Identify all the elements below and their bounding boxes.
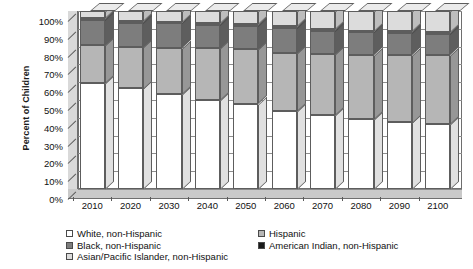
bar-segment[interactable] bbox=[118, 11, 143, 21]
y-axis-tick-label: 40% bbox=[44, 122, 68, 133]
bar-segment[interactable] bbox=[80, 20, 105, 45]
bar-column-2040[interactable] bbox=[195, 11, 220, 189]
bar-column-2080[interactable] bbox=[348, 11, 373, 189]
bar-segment[interactable] bbox=[272, 11, 297, 26]
bar-segment[interactable] bbox=[272, 26, 297, 28]
bar-column-2050[interactable] bbox=[233, 11, 258, 189]
bar-segment[interactable] bbox=[387, 31, 412, 33]
x-axis-tick-label: 2020 bbox=[111, 200, 149, 211]
bar-segment[interactable] bbox=[195, 11, 220, 23]
bar-segment[interactable] bbox=[195, 100, 220, 189]
bar-segment-side bbox=[450, 47, 459, 125]
x-axis-tick-mark bbox=[265, 197, 266, 201]
x-axis-tick-mark bbox=[188, 197, 189, 201]
bar-segment[interactable] bbox=[156, 48, 181, 94]
bar-segment-side bbox=[335, 46, 344, 116]
bar-column-2030[interactable] bbox=[156, 11, 181, 189]
bar-segment[interactable] bbox=[348, 55, 373, 119]
bar-segment[interactable] bbox=[425, 124, 450, 189]
bar-segment[interactable] bbox=[310, 31, 335, 54]
bar-segment[interactable] bbox=[310, 11, 335, 29]
bar-top-cap bbox=[166, 3, 201, 11]
american-indian-swatch bbox=[258, 242, 265, 249]
bar-segment[interactable] bbox=[348, 11, 373, 31]
bar-segment[interactable] bbox=[387, 11, 412, 31]
bar-segment[interactable] bbox=[118, 23, 143, 47]
x-axis-tick-mark bbox=[111, 197, 112, 201]
legend-item[interactable]: American Indian, non-Hispanic bbox=[258, 240, 398, 252]
legend-item[interactable]: Hispanic bbox=[258, 228, 398, 240]
bar-segment[interactable] bbox=[195, 23, 220, 25]
bar-segment[interactable] bbox=[233, 104, 258, 189]
bar-column-2020[interactable] bbox=[118, 11, 143, 189]
bar-segment[interactable] bbox=[233, 49, 258, 103]
bar-top-cap bbox=[243, 3, 278, 11]
bar-column-2100[interactable] bbox=[425, 11, 450, 189]
bar-column-2070[interactable] bbox=[310, 11, 335, 189]
bar-segment[interactable] bbox=[310, 29, 335, 31]
x-axis-tick-mark bbox=[380, 197, 381, 201]
bar-segment[interactable] bbox=[272, 111, 297, 189]
bar-top-cap bbox=[435, 3, 470, 11]
x-axis-tick-mark bbox=[342, 197, 343, 201]
legend-item[interactable]: Black, non-Hispanic bbox=[66, 240, 228, 252]
bar-segment[interactable] bbox=[80, 83, 105, 189]
bar-segment[interactable] bbox=[387, 33, 412, 54]
bar-top-cap bbox=[397, 3, 432, 11]
bar-segment-side bbox=[374, 111, 383, 190]
bar-segment[interactable] bbox=[118, 88, 143, 189]
bar-segment[interactable] bbox=[310, 115, 335, 189]
bar-segment[interactable] bbox=[156, 23, 181, 47]
bar-column-2010[interactable] bbox=[80, 11, 105, 189]
bar-segment[interactable] bbox=[425, 55, 450, 124]
bar-segment[interactable] bbox=[387, 55, 412, 123]
bar-segment[interactable] bbox=[348, 32, 373, 54]
bar-segment[interactable] bbox=[425, 32, 450, 34]
bar-segment-side bbox=[374, 47, 383, 119]
bar-segment[interactable] bbox=[80, 11, 105, 18]
bar-segment[interactable] bbox=[156, 11, 181, 22]
bar-segment-side bbox=[143, 39, 152, 89]
bar-segment-side bbox=[258, 96, 267, 190]
bar-segment[interactable] bbox=[80, 45, 105, 83]
bar-segment[interactable] bbox=[425, 34, 450, 54]
bar-segment[interactable] bbox=[118, 21, 143, 23]
legend-item[interactable]: White, non-Hispanic bbox=[66, 228, 228, 240]
bar-column-2090[interactable] bbox=[387, 11, 412, 189]
black-nonhispanic-swatch bbox=[66, 242, 73, 249]
bar-segment[interactable] bbox=[272, 53, 297, 111]
bar-segment[interactable] bbox=[233, 11, 258, 24]
bar-segment[interactable] bbox=[233, 26, 258, 49]
bar-segment-side bbox=[450, 117, 459, 190]
bar-segment[interactable] bbox=[118, 47, 143, 89]
bar-segment-side bbox=[412, 47, 421, 123]
bar-top-cap bbox=[282, 3, 317, 11]
bar-column-2060[interactable] bbox=[272, 11, 297, 189]
bar-segment[interactable] bbox=[310, 54, 335, 115]
bar-segment[interactable] bbox=[156, 21, 181, 23]
asian-pacific-islander-swatch bbox=[66, 253, 73, 260]
legend-label: American Indian, non-Hispanic bbox=[269, 240, 398, 252]
bar-segment[interactable] bbox=[272, 28, 297, 53]
stacked-bar-chart: Percent of Children 0%10%20%30%40%50%60%… bbox=[0, 0, 473, 269]
y-axis-tick-label: 50% bbox=[44, 105, 68, 116]
bar-segment[interactable] bbox=[387, 122, 412, 189]
bar-segment[interactable] bbox=[80, 18, 105, 20]
bar-segment[interactable] bbox=[195, 48, 220, 100]
bar-segment[interactable] bbox=[348, 30, 373, 32]
y-axis-tick-label: 90% bbox=[44, 33, 68, 44]
y-axis-tick-label: 30% bbox=[44, 140, 68, 151]
bar-segment-side bbox=[297, 45, 306, 111]
bar-segment-side bbox=[335, 108, 344, 190]
bar-segment[interactable] bbox=[195, 25, 220, 48]
bar-segment[interactable] bbox=[233, 24, 258, 26]
bar-segment[interactable] bbox=[425, 11, 450, 32]
legend-item[interactable]: Asian/Pacific Islander, non-Hispanic bbox=[66, 251, 228, 263]
legend-label: White, non-Hispanic bbox=[77, 228, 162, 240]
bar-segment[interactable] bbox=[348, 119, 373, 189]
x-axis-tick-mark bbox=[150, 197, 151, 201]
x-axis-tick-label: 2040 bbox=[188, 200, 226, 211]
y-axis-tick-line bbox=[68, 191, 77, 199]
bar-segment[interactable] bbox=[156, 94, 181, 189]
y-axis-tick-label: 60% bbox=[44, 87, 68, 98]
